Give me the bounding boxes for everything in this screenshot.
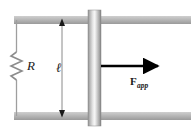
physics-figure-sliding-bar: R ℓ F app bbox=[0, 0, 191, 134]
length-label: ℓ bbox=[56, 60, 62, 75]
force-symbol: F bbox=[130, 75, 137, 87]
sliding-conducting-bar bbox=[88, 10, 101, 126]
force-subscript: app bbox=[137, 81, 149, 90]
resistance-label: R bbox=[26, 58, 35, 73]
top-rail bbox=[14, 16, 191, 24]
figure-canvas: R ℓ F app bbox=[0, 0, 191, 134]
bottom-rail bbox=[14, 112, 191, 120]
